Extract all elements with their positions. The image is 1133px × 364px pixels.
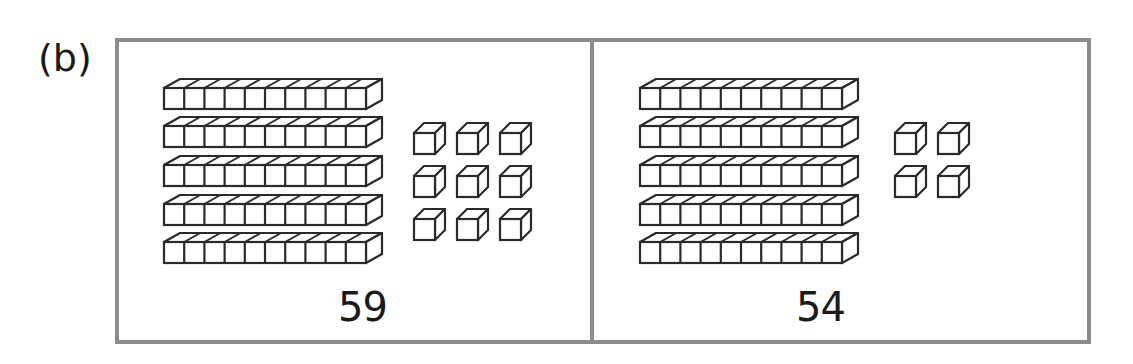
base-ten-blocks-figure: (b) 59 54 xyxy=(0,0,1133,364)
part-label: (b) xyxy=(38,36,92,80)
ones-cubes-left xyxy=(414,123,531,240)
panel-right-54 xyxy=(640,79,969,263)
panel-left-59 xyxy=(164,79,531,263)
ones-cubes-right xyxy=(895,123,969,197)
number-label-left: 59 xyxy=(338,284,387,330)
number-label-right: 54 xyxy=(796,284,845,330)
tens-rods-right xyxy=(640,79,858,263)
figure-canvas xyxy=(0,0,1133,364)
tens-rods-left xyxy=(164,79,382,263)
